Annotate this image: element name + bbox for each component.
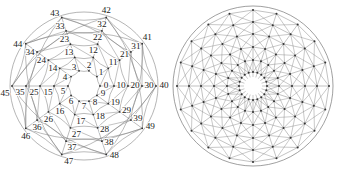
graph-node-label: 5 bbox=[61, 86, 66, 96]
graph-node-label: 19 bbox=[111, 97, 121, 107]
graph-edge bbox=[245, 100, 253, 111]
graph-edge bbox=[290, 86, 305, 98]
graph-edge bbox=[257, 99, 268, 107]
graph-node bbox=[25, 85, 27, 87]
graph-edge bbox=[241, 47, 253, 49]
graph-node-label: 36 bbox=[32, 122, 42, 132]
graph-node bbox=[237, 106, 239, 108]
graph-node-label: 11 bbox=[109, 57, 118, 67]
graph-edge bbox=[284, 117, 296, 129]
graph-edge bbox=[253, 99, 257, 112]
graph-node-label: 16 bbox=[55, 106, 65, 116]
graph-edge bbox=[290, 55, 295, 74]
graph-node bbox=[284, 108, 286, 110]
graph-node bbox=[220, 108, 222, 110]
graph-edge bbox=[227, 82, 240, 86]
graph-node-label: 26 bbox=[44, 114, 54, 124]
graph-node bbox=[239, 89, 241, 91]
graph-edge bbox=[290, 70, 302, 74]
graph-node-label: 37 bbox=[67, 142, 77, 152]
graph-node bbox=[260, 60, 262, 62]
graph-node bbox=[127, 85, 129, 87]
graph-edge bbox=[290, 74, 305, 86]
graph-edge bbox=[232, 94, 242, 101]
graph-node bbox=[221, 127, 223, 129]
graph-edge bbox=[221, 109, 222, 128]
graph-node bbox=[260, 96, 262, 98]
graph-node bbox=[99, 85, 101, 87]
graph-node bbox=[48, 59, 50, 61]
graph-edge bbox=[201, 117, 211, 124]
graph-edge bbox=[75, 101, 79, 114]
graph-edge bbox=[238, 94, 242, 107]
graph-edge bbox=[291, 138, 298, 148]
graph-edge bbox=[201, 48, 211, 55]
graph-node-label: 49 bbox=[146, 121, 156, 131]
graph-edge bbox=[233, 25, 237, 36]
graph-edge bbox=[269, 135, 291, 137]
graph-edge bbox=[211, 54, 230, 55]
graph-edge bbox=[276, 14, 290, 35]
graph-edge bbox=[268, 101, 274, 107]
graph-node-label: 18 bbox=[96, 111, 106, 121]
graph-edge bbox=[238, 65, 242, 78]
graph-edge bbox=[237, 37, 253, 47]
graph-edge bbox=[253, 147, 273, 162]
graph-node bbox=[313, 65, 315, 67]
graph-edge bbox=[201, 124, 222, 128]
graph-edge bbox=[291, 34, 295, 55]
graph-edge bbox=[227, 78, 228, 86]
graph-edge bbox=[266, 90, 274, 101]
graph-node bbox=[141, 43, 143, 45]
graph-edge bbox=[26, 128, 62, 154]
graph-node bbox=[252, 149, 254, 151]
graph-node bbox=[313, 130, 315, 132]
graph-edge bbox=[265, 37, 269, 49]
graph-edge bbox=[211, 44, 223, 56]
graph-node bbox=[220, 62, 222, 64]
graph-node-label: 31 bbox=[131, 41, 141, 51]
graph-node bbox=[188, 85, 190, 87]
graph-edge bbox=[264, 94, 268, 107]
labeled-graph-canvas: 0123456789101112131415161718192021222324… bbox=[0, 0, 169, 179]
graph-edge bbox=[54, 86, 60, 104]
graph-node bbox=[313, 40, 315, 42]
graph-edge bbox=[232, 71, 245, 75]
graph-node bbox=[244, 96, 246, 98]
graph-node-label: 44 bbox=[13, 39, 23, 49]
graph-edge bbox=[204, 63, 222, 70]
graph-node-label: 4 bbox=[63, 72, 68, 82]
graph-edge bbox=[314, 106, 315, 131]
graph-node bbox=[65, 30, 67, 32]
graph-edge bbox=[181, 63, 192, 67]
graph-edge bbox=[230, 150, 253, 158]
graph-edge bbox=[241, 34, 253, 49]
graph-node bbox=[176, 85, 178, 87]
graph-node bbox=[231, 100, 233, 102]
graph-node bbox=[226, 85, 228, 87]
graph-edge bbox=[214, 74, 216, 86]
graph-node bbox=[191, 105, 193, 107]
graph-edge bbox=[314, 86, 329, 106]
graph-node bbox=[119, 59, 121, 61]
graph-node-label: 28 bbox=[100, 124, 110, 134]
graph-edge bbox=[227, 86, 228, 94]
graph-node bbox=[294, 116, 296, 118]
graph-edge bbox=[215, 14, 229, 35]
graph-edge bbox=[269, 118, 276, 136]
graph-node bbox=[96, 95, 98, 97]
graph-edge bbox=[261, 65, 268, 75]
graph-node bbox=[283, 43, 285, 45]
graph-edge bbox=[295, 48, 305, 55]
graph-edge bbox=[264, 71, 274, 78]
graph-node bbox=[74, 57, 76, 59]
graph-node bbox=[239, 81, 241, 83]
graph-edge bbox=[253, 37, 269, 47]
graph-edge bbox=[201, 44, 222, 48]
graph-edge bbox=[264, 94, 274, 101]
graph-edge bbox=[192, 66, 201, 86]
graph-edge bbox=[106, 18, 142, 44]
graph-node bbox=[267, 64, 269, 66]
graph-edge bbox=[181, 106, 192, 110]
graph-node bbox=[210, 116, 212, 118]
